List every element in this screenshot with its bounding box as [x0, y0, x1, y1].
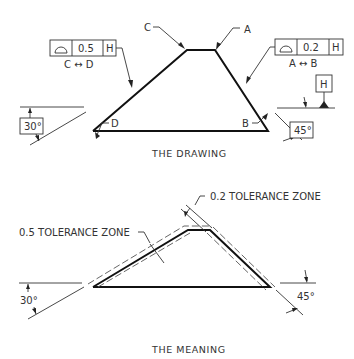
- tolerance-zone-0.5-inner: [98, 233, 190, 287]
- angle-dimension-left: 30°: [20, 107, 86, 145]
- point-d-callout: D: [95, 118, 119, 139]
- meaning-angle-right-label: 45°: [297, 291, 315, 302]
- zone-left-label: 0.5 TOLERANCE ZONE: [19, 227, 130, 238]
- fcf-left-datum: H: [106, 43, 114, 54]
- feature-control-frame-left: 0.5 H C ↔ D: [50, 40, 133, 88]
- point-c-label: C: [144, 22, 151, 33]
- gdt-diagram: C A D B 0.5 H C ↔ D: [0, 0, 354, 359]
- bottom-meaning: 0.2 TOLERANCE ZONE 0.5 TOLERANCE ZONE 30…: [19, 191, 321, 355]
- fcf-right-datum: H: [332, 42, 340, 53]
- fcf-right-tolerance: 0.2: [303, 42, 319, 53]
- angle-dimension-right: 45°: [275, 113, 313, 141]
- point-a-label: A: [244, 24, 251, 35]
- top-drawing: C A D B 0.5 H C ↔ D: [20, 22, 343, 159]
- meaning-caption: THE MEANING: [151, 344, 226, 355]
- fcf-left-between-label: C ↔ D: [64, 59, 94, 70]
- angle-right-label: 45°: [294, 125, 312, 136]
- point-b-label: B: [242, 118, 249, 129]
- angle-left-label: 30°: [24, 121, 42, 132]
- datum-feature-label: H: [320, 79, 328, 90]
- point-a-callout: A: [216, 24, 251, 50]
- tolerance-zone-0.2-inner: [207, 233, 266, 290]
- datum-feature-h: H: [277, 75, 335, 108]
- drawing-caption: THE DRAWING: [151, 148, 227, 159]
- nominal-profile-outline: [93, 230, 270, 287]
- meaning-angle-left: 30°: [19, 283, 84, 319]
- fcf-right-between-label: A ↔ B: [289, 58, 318, 69]
- tolerance-zone-0.2-callout: 0.2 TOLERANCE ZONE: [195, 191, 321, 205]
- zone-right-label: 0.2 TOLERANCE ZONE: [210, 191, 321, 202]
- fcf-left-tolerance: 0.5: [78, 43, 94, 54]
- point-c-callout: C: [144, 22, 185, 49]
- meaning-angle-left-label: 30°: [20, 295, 38, 306]
- datum-triangle-icon: [319, 101, 329, 108]
- meaning-angle-right: 45°: [276, 270, 316, 315]
- tolerance-zone-0.2-outer: [213, 227, 275, 287]
- point-d-label: D: [111, 118, 119, 129]
